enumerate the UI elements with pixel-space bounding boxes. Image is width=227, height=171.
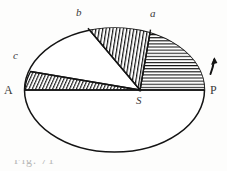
label-point-a: a: [150, 8, 156, 19]
orbit-diagram: [0, 0, 227, 171]
figure-caption-text: Fig. 71: [14, 160, 124, 168]
label-point-b: b: [76, 7, 82, 18]
focus-point-marker: [138, 88, 141, 91]
label-perihelion: P: [210, 84, 217, 96]
label-focus: S: [136, 95, 142, 106]
figure-caption: Fig. 71: [14, 160, 124, 171]
motion-arrow-icon: [211, 57, 218, 74]
figure-container: A P S a b c Fig. 71: [0, 0, 227, 171]
sector-s-p-a: [140, 30, 205, 90]
label-aphelion: A: [4, 84, 13, 96]
label-point-c: c: [13, 50, 18, 61]
